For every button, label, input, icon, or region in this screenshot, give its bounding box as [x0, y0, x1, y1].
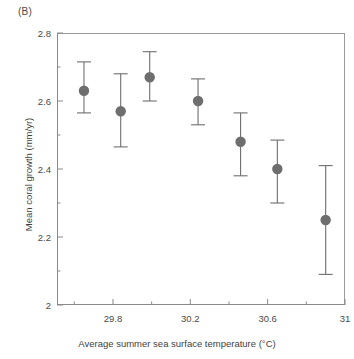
data-point-group: [143, 52, 157, 101]
x-axis-title: Average summer sea surface temperature (…: [0, 338, 354, 349]
figure-panel-b: (B) 22.22.42.62.8 29.830.230.631 Average…: [0, 0, 354, 359]
data-point-group: [114, 74, 128, 147]
data-point-group: [270, 140, 284, 203]
y-axis-title: Mean coral growth (mm/yr): [23, 75, 34, 275]
chart-marks-layer: [0, 0, 354, 359]
data-point-marker: [320, 215, 330, 225]
data-point-marker: [272, 164, 282, 174]
x-axis-tick-label: 30.2: [170, 313, 210, 324]
data-point-marker: [116, 106, 126, 116]
y-axis-tick-label: 2: [11, 300, 51, 311]
data-point-marker: [145, 72, 155, 82]
data-point-group: [77, 62, 91, 113]
data-point-group: [234, 113, 248, 176]
y-axis-tick-label: 2.8: [11, 28, 51, 39]
data-point-group: [191, 79, 205, 125]
x-axis-tick-label: 31: [325, 313, 354, 324]
data-point-marker: [193, 96, 203, 106]
data-point-marker: [79, 86, 89, 96]
x-axis-tick-label: 29.8: [93, 313, 133, 324]
data-point-marker: [235, 137, 245, 147]
data-point-group: [319, 166, 333, 275]
x-axis-tick-label: 30.6: [248, 313, 288, 324]
